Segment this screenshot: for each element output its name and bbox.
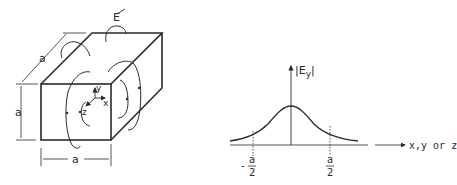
e-field-label: E [113, 11, 120, 24]
cube-height-label: a [15, 106, 22, 119]
tick-left-sign: - [241, 160, 245, 171]
dimension-lines [16, 33, 111, 166]
diagram-canvas: a a a E y x z |Ey| x,y or z - a 2 a 2 [0, 0, 457, 185]
field-profile-graph [230, 66, 405, 166]
cube-depth-label: a [39, 52, 46, 65]
cube-width-label: a [72, 153, 79, 166]
gaussian-curve [230, 106, 358, 141]
tick-left-numerator: a [249, 154, 255, 165]
y-axis-label: |Ey| [295, 64, 315, 79]
tick-right-numerator: a [327, 154, 333, 165]
axis-z-label: z [82, 107, 87, 117]
cavity-cube [16, 9, 162, 166]
cube-top-face [41, 33, 162, 84]
axis-y-label: y [96, 83, 102, 93]
tick-left-denominator: 2 [249, 167, 255, 178]
tick-right-denominator: 2 [327, 167, 333, 178]
x-axis-label: x,y or z [409, 140, 457, 151]
axis-x-label: x [103, 98, 109, 108]
